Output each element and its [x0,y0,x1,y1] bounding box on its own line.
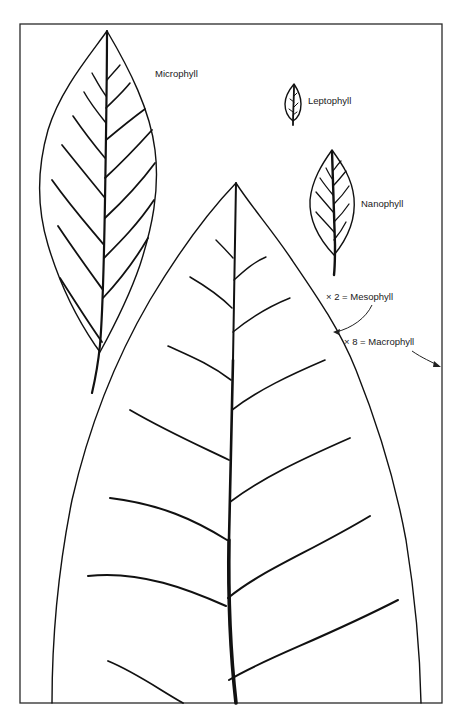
large-leaf-right-veins [228,257,398,680]
large-leaf [52,183,421,703]
mesophyll-arrow [336,305,372,332]
label-mesophyll: × 2 = Mesophyll [326,291,393,302]
large-leaf-midrib [233,183,236,360]
leptophyll-leaf [285,84,301,125]
nanophyll-leaf [310,150,354,275]
label-microphyll: Microphyll [155,68,198,79]
label-nanophyll: Nanophyll [361,198,403,209]
label-leptophyll: Leptophyll [308,95,351,106]
leptophyll-midrib [293,85,294,125]
macrophyll-arrowhead [433,361,441,367]
leaf-size-diagram: Microphyll Leptophyll Nanophyll [0,0,459,723]
microphyll-leaf [40,31,157,393]
microphyll-outline [40,31,157,352]
label-macrophyll: × 8 = Macrophyll [344,336,414,347]
large-leaf-left-veins [88,240,233,703]
microphyll-right-veins [103,65,155,298]
microphyll-left-veins [52,73,106,342]
large-leaf-outline [52,183,421,703]
